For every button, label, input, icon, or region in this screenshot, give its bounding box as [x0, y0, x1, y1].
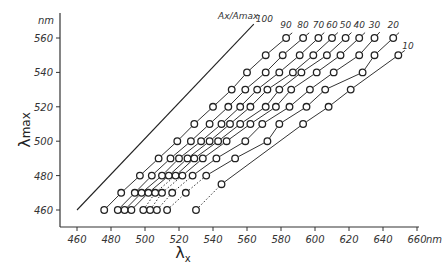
series-segment — [362, 33, 365, 36]
series-segment — [283, 109, 303, 122]
data-point — [164, 207, 171, 214]
series-segment — [306, 109, 325, 122]
series-segment — [349, 33, 352, 36]
data-point — [371, 35, 378, 42]
data-point — [288, 86, 295, 93]
series-segment — [243, 92, 254, 104]
data-point — [179, 172, 186, 179]
data-point — [359, 69, 366, 76]
data-point — [159, 190, 166, 197]
legend-title: Ax/Amax — [217, 11, 259, 21]
series-segment — [151, 178, 165, 190]
series-label: 30 — [369, 20, 381, 30]
data-point — [298, 69, 305, 76]
data-point — [193, 207, 200, 214]
chart: 460480500520540560nm46048050052054056058… — [0, 0, 448, 275]
data-points — [101, 35, 402, 214]
series-segment — [365, 58, 372, 69]
series-segment — [185, 161, 199, 173]
series-segment — [269, 58, 280, 70]
series-segment — [282, 58, 296, 70]
series-label: 100 — [256, 14, 273, 24]
data-point — [247, 121, 254, 128]
series-segment — [158, 178, 172, 190]
data-point — [140, 207, 147, 214]
series-segment — [213, 127, 227, 139]
x-tick-label: 460 — [67, 234, 86, 245]
data-point — [395, 52, 402, 59]
x-unit-label: nm — [426, 234, 442, 245]
data-point — [169, 190, 176, 197]
data-point — [118, 190, 125, 197]
data-point — [300, 121, 307, 128]
data-point — [101, 207, 108, 214]
data-point — [213, 155, 220, 162]
data-point — [145, 190, 152, 197]
data-point — [276, 121, 283, 128]
series-segment — [199, 187, 219, 207]
series-segment — [198, 144, 215, 157]
series-lines — [77, 24, 405, 210]
data-point — [218, 181, 225, 188]
data-point — [322, 86, 329, 93]
data-point — [264, 138, 271, 145]
series-segment — [268, 93, 277, 104]
x-tick-label: 620 — [339, 234, 358, 245]
data-point — [296, 52, 303, 59]
series-segment — [143, 161, 156, 173]
series-segment — [239, 143, 264, 156]
series-segment — [316, 41, 329, 53]
data-point — [303, 104, 310, 111]
series-segment — [206, 144, 223, 157]
series-segment — [321, 33, 324, 36]
x-tick-label: 560 — [237, 234, 256, 245]
data-point — [218, 121, 225, 128]
series-label: 60 — [326, 20, 338, 30]
data-point — [242, 138, 249, 145]
data-point — [132, 190, 139, 197]
data-point — [210, 104, 217, 111]
series-segment — [204, 127, 218, 139]
data-point — [290, 69, 297, 76]
series-segment — [175, 178, 189, 190]
data-point — [347, 86, 354, 93]
data-point — [200, 155, 207, 162]
series-segment — [162, 144, 175, 156]
series-segment — [305, 57, 324, 70]
series-segment — [293, 92, 307, 104]
series-segment — [179, 161, 192, 173]
series-segment — [253, 92, 264, 104]
data-point — [155, 155, 162, 162]
data-point — [166, 172, 173, 179]
series-segment — [295, 75, 314, 88]
series-segment — [266, 109, 286, 122]
series-labels: 100908070605040302010 — [256, 14, 414, 51]
y-axis-title: λmax — [15, 112, 34, 148]
series-segment — [221, 126, 237, 138]
data-point — [273, 104, 280, 111]
series-label: 70 — [313, 20, 325, 30]
data-point — [356, 52, 363, 59]
x-tick-label: 600 — [305, 234, 324, 245]
series-segment — [180, 127, 191, 139]
series-segment — [170, 196, 183, 208]
x-tick-label: 580 — [271, 234, 290, 245]
series-segment — [286, 41, 300, 53]
series-label: 40 — [353, 20, 365, 30]
series-segment — [332, 92, 348, 104]
data-point — [227, 121, 234, 128]
data-point — [225, 104, 232, 111]
data-point — [324, 52, 331, 59]
data-point — [342, 35, 349, 42]
series-segment — [279, 93, 289, 104]
series-segment — [330, 41, 343, 53]
data-point — [237, 121, 244, 128]
data-point — [206, 121, 213, 128]
series-segment — [320, 58, 337, 71]
series-segment — [127, 196, 138, 208]
series-segment — [121, 196, 132, 208]
data-point — [149, 172, 156, 179]
y-tick-label: 540 — [34, 67, 53, 78]
series-segment — [306, 33, 309, 36]
series-segment — [377, 41, 390, 53]
